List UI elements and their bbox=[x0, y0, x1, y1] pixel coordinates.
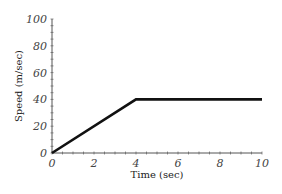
y-tick-label: 80 bbox=[33, 40, 47, 53]
y-tick-label: 0 bbox=[40, 147, 47, 160]
speed-line bbox=[52, 99, 262, 153]
x-tick-label: 2 bbox=[90, 157, 98, 170]
y-tick-labels: 020406080100 bbox=[26, 13, 47, 160]
y-tick-label: 60 bbox=[33, 67, 47, 80]
x-axis-title: Time (sec) bbox=[131, 169, 184, 180]
y-tick-label: 40 bbox=[32, 93, 47, 106]
speed-time-chart: 020406080100 0246810 Time (sec) Speed (m… bbox=[0, 0, 282, 194]
y-axis-title: Speed (m/sec) bbox=[13, 50, 24, 122]
x-tick-label: 10 bbox=[255, 157, 269, 170]
x-tick-label: 0 bbox=[49, 157, 56, 170]
x-tick-label: 8 bbox=[217, 157, 224, 170]
y-tick-label: 20 bbox=[32, 120, 47, 133]
y-tick-label: 100 bbox=[26, 13, 47, 26]
